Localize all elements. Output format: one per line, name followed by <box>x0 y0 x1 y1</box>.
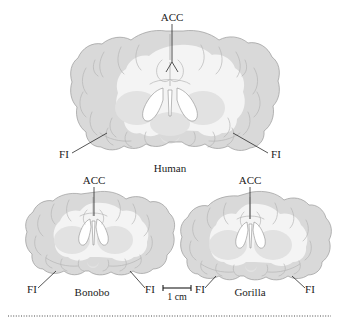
gorilla-brain-section <box>181 191 332 279</box>
gorilla-fi-right-label: FI <box>305 283 315 295</box>
bonobo-fi-left-label: FI <box>27 283 37 295</box>
gorilla-acc-label: ACC <box>239 174 262 186</box>
human-fi-left-label: FI <box>59 148 69 160</box>
human-species-label: Human <box>154 162 187 174</box>
bonobo-species-label: Bonobo <box>75 286 110 298</box>
panel-gorilla: ACC FI FI Gorilla <box>181 174 332 298</box>
human-brain-section <box>71 30 280 150</box>
gorilla-species-label: Gorilla <box>234 286 265 298</box>
scale-bar-label: 1 cm <box>167 291 187 302</box>
gorilla-fi-left-label: FI <box>195 283 205 295</box>
human-acc-label: ACC <box>161 11 184 23</box>
bonobo-brain-section <box>26 191 175 275</box>
panel-bonobo: ACC FI FI Bonobo <box>26 174 175 298</box>
bonobo-fi-right-label: FI <box>145 283 155 295</box>
bonobo-acc-label: ACC <box>83 174 106 186</box>
brain-section-figure: ACC FI FI Human <box>0 0 339 323</box>
panel-human: ACC FI FI Human <box>59 11 281 174</box>
bonobo-fi-left-leader <box>38 271 56 288</box>
scale-bar: 1 cm <box>163 285 191 302</box>
human-fi-right-label: FI <box>271 148 281 160</box>
